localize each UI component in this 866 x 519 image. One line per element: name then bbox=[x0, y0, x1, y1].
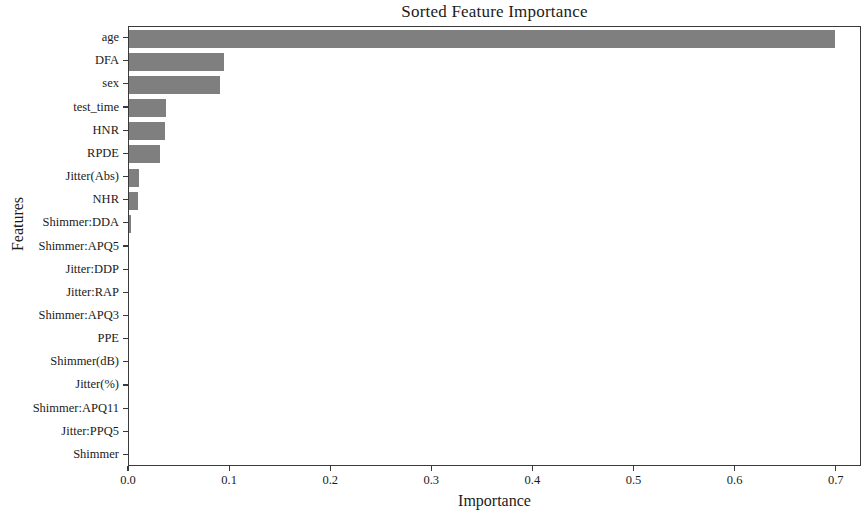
y-tick-label: RPDE bbox=[87, 147, 119, 160]
bar bbox=[129, 169, 139, 187]
y-tick-label: Shimmer:DDA bbox=[43, 216, 119, 229]
x-tick-label: 0.2 bbox=[322, 474, 338, 487]
plot-area bbox=[128, 26, 861, 466]
x-tick-mark bbox=[330, 466, 331, 471]
x-tick-mark bbox=[835, 466, 836, 471]
y-tick-label: PPE bbox=[97, 332, 119, 345]
y-tick-label: Shimmer bbox=[73, 448, 119, 461]
x-tick-mark bbox=[229, 466, 230, 471]
bar bbox=[129, 122, 165, 140]
y-tick-label: test_time bbox=[73, 101, 119, 114]
bar bbox=[129, 192, 138, 210]
x-tick-label: 0.4 bbox=[525, 474, 541, 487]
bar bbox=[129, 215, 131, 233]
y-tick-label: age bbox=[102, 31, 119, 44]
chart-title: Sorted Feature Importance bbox=[128, 2, 861, 22]
x-tick-mark bbox=[633, 466, 634, 471]
x-tick-label: 0.1 bbox=[221, 474, 237, 487]
y-tick-label: Shimmer:APQ11 bbox=[33, 402, 119, 415]
x-axis-label: Importance bbox=[128, 492, 861, 510]
y-tick-label: Jitter:DDP bbox=[66, 263, 119, 276]
x-tick-label: 0.6 bbox=[727, 474, 743, 487]
bar bbox=[129, 30, 835, 48]
x-tick-label: 0.5 bbox=[626, 474, 642, 487]
y-tick-label: Jitter:PPQ5 bbox=[61, 425, 119, 438]
y-axis-ticks: ageDFAsextest_timeHNRRPDEJitter(Abs)NHRS… bbox=[0, 26, 128, 466]
y-tick-label: sex bbox=[102, 77, 119, 90]
y-tick-label: HNR bbox=[93, 124, 119, 137]
bar bbox=[129, 76, 220, 94]
bars-layer bbox=[129, 27, 860, 465]
x-tick-mark bbox=[734, 466, 735, 471]
y-tick-label: Shimmer:APQ5 bbox=[38, 240, 119, 253]
x-tick-mark bbox=[532, 466, 533, 471]
bar bbox=[129, 53, 224, 71]
x-tick-label: 0.0 bbox=[120, 474, 136, 487]
x-tick-mark bbox=[431, 466, 432, 471]
y-tick-label: Shimmer:APQ3 bbox=[38, 309, 119, 322]
y-tick-label: DFA bbox=[95, 54, 119, 67]
y-tick-label: NHR bbox=[93, 193, 119, 206]
feature-importance-chart: Sorted Feature Importance Features ageDF… bbox=[0, 0, 866, 519]
x-tick-label: 0.7 bbox=[828, 474, 844, 487]
y-tick-label: Jitter(%) bbox=[75, 378, 119, 391]
y-tick-label: Jitter(Abs) bbox=[66, 170, 119, 183]
y-tick-label: Jitter:RAP bbox=[66, 286, 119, 299]
bar bbox=[129, 145, 160, 163]
bar bbox=[129, 99, 166, 117]
x-tick-label: 0.3 bbox=[423, 474, 439, 487]
x-tick-mark bbox=[127, 466, 128, 471]
y-tick-label: Shimmer(dB) bbox=[50, 355, 119, 368]
